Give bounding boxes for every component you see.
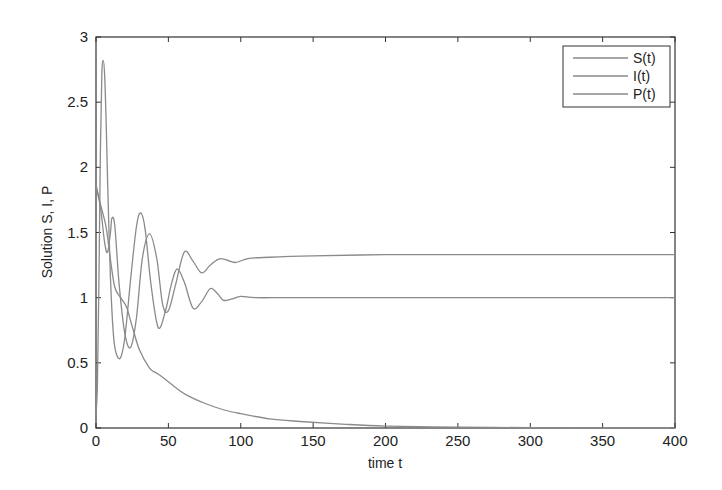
x-tick-label: 300 — [518, 432, 543, 449]
series-lines — [96, 60, 675, 428]
x-tick-label: 350 — [590, 432, 615, 449]
y-axis-label: Solution S, I, P — [39, 186, 55, 279]
legend-item-label: S(t) — [633, 50, 656, 66]
y-tick-label: 2 — [80, 158, 88, 175]
y-tick-label: 2.5 — [67, 93, 88, 110]
y-tick-label: 1.5 — [67, 224, 88, 241]
series-line-pt — [96, 187, 675, 348]
y-tick-label: 1 — [80, 289, 88, 306]
series-line-st — [96, 184, 675, 428]
x-tick-label: 250 — [445, 432, 470, 449]
x-tick-label: 100 — [228, 432, 253, 449]
legend-item-label: P(t) — [633, 86, 656, 102]
x-tick-label: 400 — [662, 432, 687, 449]
series-line-it — [96, 60, 675, 415]
legend: S(t)I(t)P(t) — [563, 46, 670, 107]
x-tick-label: 200 — [373, 432, 398, 449]
chart: 050100150200250300350400 00.511.522.53 t… — [0, 0, 722, 490]
legend-item-label: I(t) — [633, 68, 650, 84]
x-tick-label: 150 — [301, 432, 326, 449]
x-axis-label: time t — [368, 455, 402, 471]
x-tick-label: 50 — [160, 432, 177, 449]
x-tick-label: 0 — [92, 432, 100, 449]
y-tick-label: 0 — [80, 419, 88, 436]
y-tick-label: 0.5 — [67, 354, 88, 371]
y-tick-label: 3 — [80, 28, 88, 45]
